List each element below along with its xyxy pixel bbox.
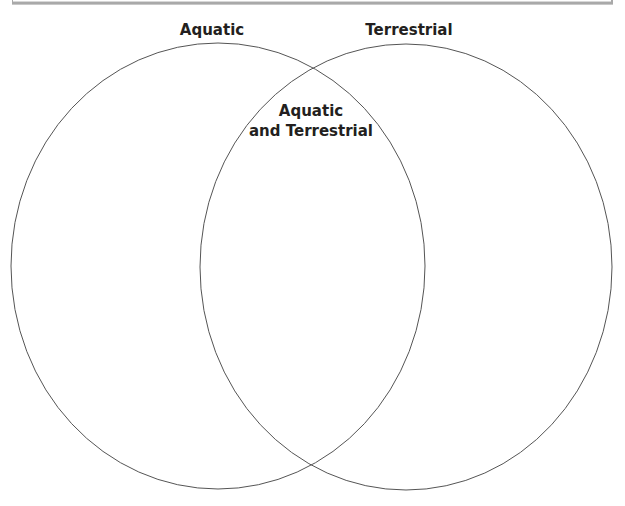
aquatic-circle	[11, 43, 425, 489]
venn-diagram: Aquatic Terrestrial Aquatic and Terrestr…	[0, 0, 625, 506]
aquatic-label: Aquatic	[180, 21, 244, 39]
intersection-label-line-1: Aquatic	[279, 102, 343, 120]
terrestrial-label: Terrestrial	[365, 21, 452, 39]
intersection-label-line-2: and Terrestrial	[249, 122, 373, 140]
terrestrial-circle	[200, 44, 612, 490]
